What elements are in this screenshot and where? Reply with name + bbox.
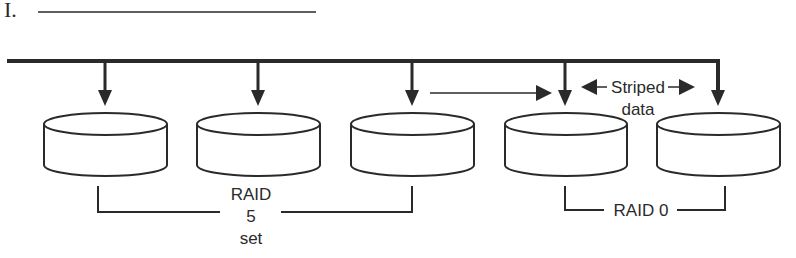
raid-diagram: I. Striped data xyxy=(0,0,796,258)
raid5-label-line1: RAID xyxy=(231,185,272,204)
down-arrow-disk-1 xyxy=(98,61,112,106)
disk-4 xyxy=(505,113,627,176)
transfer-arrow xyxy=(430,85,552,101)
down-arrow-disk-5 xyxy=(711,61,725,106)
striped-label: Striped xyxy=(611,78,665,97)
data-label: data xyxy=(621,100,655,119)
down-arrow-disk-4 xyxy=(558,61,572,106)
disk-5 xyxy=(657,113,780,176)
raid5-label-line2: 5 xyxy=(246,207,255,226)
raid5-label-line3: set xyxy=(240,229,263,248)
striped-data-arrow-left xyxy=(581,79,607,95)
down-arrow-disk-2 xyxy=(251,61,265,106)
disk-2 xyxy=(197,113,320,176)
disk-3 xyxy=(351,113,474,176)
disk-1 xyxy=(44,113,167,176)
raid0-label: RAID 0 xyxy=(614,201,669,220)
question-number: I. xyxy=(4,0,17,22)
down-arrow-disk-3 xyxy=(405,61,419,106)
striped-data-arrow-right xyxy=(668,79,695,95)
